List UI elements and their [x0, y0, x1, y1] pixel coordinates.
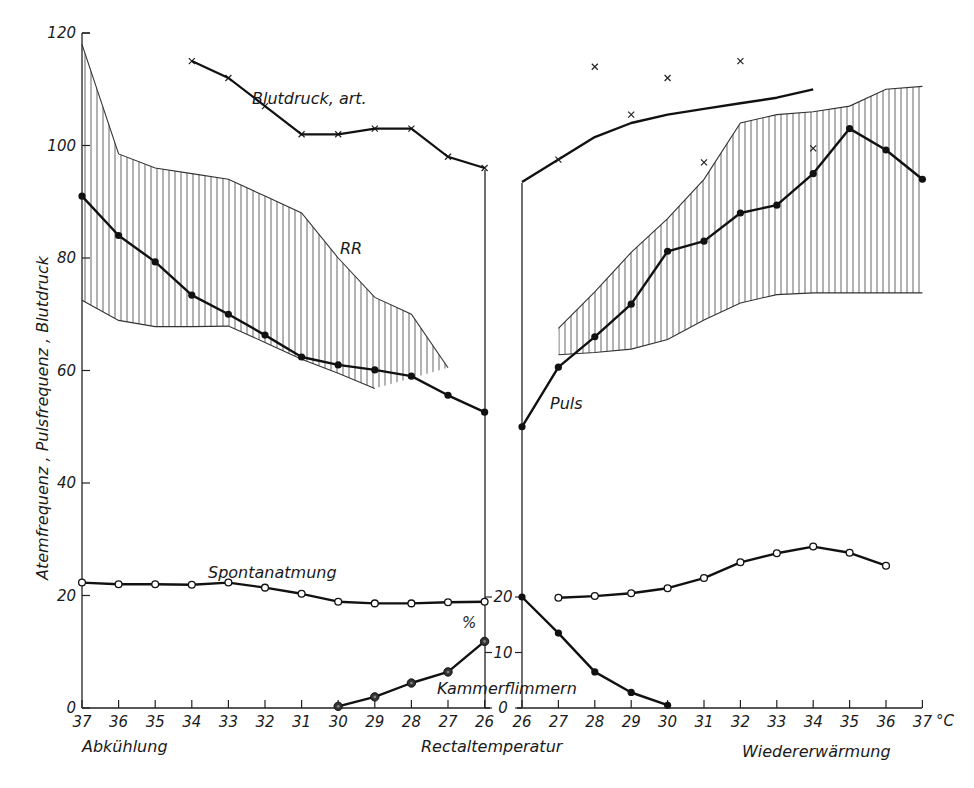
pct-tick-label: 20 — [493, 588, 512, 606]
series-line — [558, 547, 886, 598]
y-tick-label: 100 — [47, 137, 76, 155]
y-tick-label: 80 — [57, 249, 76, 267]
data-point-circle — [883, 562, 890, 569]
physiology-chart: 0204060801001200102037363534333231302928… — [0, 0, 974, 788]
data-point-circle — [152, 581, 159, 588]
pct-tick-label: 0 — [498, 699, 508, 717]
data-point-dot — [628, 689, 635, 696]
data-point-circle — [79, 579, 86, 586]
rr-label: RR — [340, 239, 362, 258]
x-tick-label: 33 — [767, 713, 786, 731]
data-point-cross — [701, 159, 707, 165]
x-tick-label: 28 — [402, 713, 421, 731]
x-tick-label: 29 — [622, 713, 641, 731]
blutdruck-label: Blutdruck, art. — [252, 89, 367, 108]
data-point-dot — [810, 170, 817, 177]
data-point-circle — [664, 585, 671, 592]
rr-band-fill — [558, 86, 922, 354]
x-tick-label: 26 — [512, 713, 531, 731]
data-point-circle — [188, 581, 195, 588]
data-point-ring-center — [483, 640, 486, 643]
data-point-dot — [335, 361, 342, 368]
data-point-dot — [408, 373, 415, 380]
x-tick-label: 29 — [365, 713, 384, 731]
data-point-dot — [773, 202, 780, 209]
data-point-circle — [628, 590, 635, 597]
data-point-circle — [701, 575, 708, 582]
data-point-dot — [882, 146, 889, 153]
data-point-circle — [298, 590, 305, 597]
data-point-circle — [371, 600, 378, 607]
data-point-cross — [592, 64, 598, 70]
spontanatmung-label: Spontanatmung — [208, 563, 337, 582]
puls-label: Puls — [550, 394, 583, 413]
pct-tick-label: 10 — [493, 644, 512, 662]
data-point-ring-center — [374, 696, 377, 699]
x-tick-label: 30 — [329, 713, 348, 731]
chart-canvas: 0204060801001200102037363534333231302928… — [0, 0, 974, 788]
data-point-dot — [481, 409, 488, 416]
data-point-circle — [591, 593, 598, 600]
kammerflimmern-label: Kammerflimmern — [437, 679, 577, 698]
abkuehlung-label: Abkühlung — [81, 737, 168, 756]
data-point-circle — [445, 599, 452, 606]
data-point-circle — [555, 594, 562, 601]
x-tick-label: 35 — [146, 713, 165, 731]
data-point-circle — [481, 598, 488, 605]
data-point-dot — [555, 629, 562, 636]
data-point-dot — [664, 248, 671, 255]
x-tick-label: 27 — [549, 713, 569, 731]
data-point-dot — [188, 292, 195, 299]
data-point-ring-center — [447, 671, 450, 674]
y-tick-label: 20 — [57, 587, 76, 605]
data-point-dot — [700, 238, 707, 245]
data-point-dot — [664, 702, 671, 709]
data-point-dot — [261, 331, 268, 338]
data-point-dot — [737, 209, 744, 216]
data-point-dot — [518, 423, 525, 430]
x-tick-label: 26 — [475, 713, 494, 731]
data-point-cross — [665, 75, 671, 81]
y-tick-label: 40 — [57, 474, 76, 492]
data-point-circle — [737, 559, 744, 566]
x-tick-label: 36 — [109, 713, 128, 731]
data-point-dot — [298, 353, 305, 360]
x-tick-label: 37 — [913, 713, 933, 731]
data-point-cross — [737, 58, 743, 64]
y-tick-label: 120 — [47, 24, 76, 42]
data-point-dot — [371, 366, 378, 373]
y-tick-label: 60 — [57, 362, 76, 380]
data-point-circle — [408, 600, 415, 607]
x-tick-label: 28 — [585, 713, 604, 731]
data-point-ring-center — [337, 705, 340, 708]
x-tick-label: 35 — [840, 713, 859, 731]
data-point-circle — [335, 598, 342, 605]
data-point-circle — [115, 581, 122, 588]
data-point-dot — [152, 258, 159, 265]
data-point-cross — [628, 112, 634, 118]
data-point-circle — [773, 550, 780, 557]
percent-symbol: % — [462, 614, 476, 632]
x-tick-label: 30 — [658, 713, 677, 731]
data-point-dot — [444, 392, 451, 399]
data-point-dot — [628, 301, 635, 308]
x-tick-label: 32 — [255, 713, 274, 731]
x-tick-label: 31 — [292, 713, 311, 731]
data-point-ring-center — [410, 682, 413, 685]
x-tick-label: 37 — [72, 713, 92, 731]
celsius-unit: °C — [936, 712, 955, 730]
x-tick-label: 34 — [804, 713, 823, 731]
rectaltemperatur-label: Rectaltemperatur — [421, 737, 564, 756]
data-point-dot — [78, 193, 85, 200]
data-point-dot — [591, 333, 598, 340]
data-point-dot — [518, 593, 525, 600]
data-point-dot — [919, 176, 926, 183]
x-tick-label: 34 — [182, 713, 201, 731]
wiedererwaermung-label: Wiedererwärmung — [742, 742, 891, 761]
data-point-dot — [225, 311, 232, 318]
x-tick-label: 32 — [731, 713, 750, 731]
blutdruck-curve — [192, 61, 485, 168]
x-tick-label: 33 — [219, 713, 238, 731]
rr-hatched-bands — [82, 44, 922, 388]
data-point-circle — [810, 543, 817, 550]
